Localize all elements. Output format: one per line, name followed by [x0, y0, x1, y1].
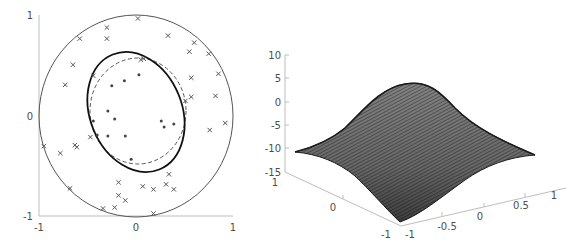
x-marker	[208, 128, 212, 132]
x-marker	[189, 95, 193, 99]
x-marker	[213, 94, 217, 98]
z-tick-label: -5	[271, 120, 281, 131]
y-tick-label: 1	[27, 10, 33, 21]
z-tick-label: 10	[268, 50, 281, 61]
x-marker	[136, 16, 140, 20]
dot-marker	[113, 118, 116, 121]
dot-marker	[130, 158, 133, 161]
x-marker	[105, 25, 109, 29]
x-marker	[172, 187, 176, 191]
x-marker	[189, 76, 193, 80]
z-tick-label: 0	[275, 97, 281, 108]
x-marker	[88, 135, 92, 139]
dot-marker	[92, 120, 95, 123]
x-marker	[116, 180, 120, 184]
x-tick-label: 0.5	[513, 200, 529, 211]
x-marker	[187, 49, 191, 53]
x-marker	[151, 187, 155, 191]
x-marker	[105, 36, 109, 40]
surface-plot: 10 5 0 -5 -10 -15 1 0 -1 -1 -0.5 0 0.5 1	[265, 50, 566, 240]
x-marker	[78, 36, 82, 40]
x-marker	[223, 121, 227, 125]
x-tick-label: 0	[133, 222, 139, 233]
x-marker	[101, 206, 105, 210]
x-tick-label: 1	[551, 190, 557, 201]
y-tick-label: 0	[330, 202, 336, 213]
dot-marker	[124, 135, 127, 138]
dot-marker	[137, 73, 140, 76]
dot-marker	[123, 79, 126, 82]
x-marker	[166, 33, 170, 37]
x-tick-label: 1	[230, 222, 236, 233]
y-tick-label: -1	[381, 229, 391, 240]
x-marker	[167, 172, 171, 176]
scatter-plot: 1 0 -1 -1 0 1	[23, 10, 236, 233]
dot-marker	[106, 109, 109, 112]
dot-marker	[96, 134, 99, 137]
x-marker	[71, 63, 75, 67]
x-marker	[63, 83, 67, 87]
z-ticks	[285, 55, 289, 148]
x-marker	[112, 205, 116, 209]
dot-marker	[110, 84, 113, 87]
x-tick-label: -1	[405, 229, 415, 240]
outer-samples	[42, 16, 228, 215]
y-tick-label: 0	[27, 111, 33, 122]
x-marker	[141, 184, 145, 188]
x-tick-label: -1	[34, 222, 44, 233]
x-marker	[58, 151, 62, 155]
dot-marker	[172, 123, 175, 126]
y-tick-label: 1	[272, 177, 278, 188]
x-marker	[216, 72, 220, 76]
dot-marker	[163, 126, 166, 129]
x-marker	[164, 182, 168, 186]
figure: 1 0 -1 -1 0 1 10 5 0 -5 -10 -15	[0, 0, 579, 250]
z-tick-label: 5	[275, 73, 281, 84]
y-tick-label: -1	[23, 211, 33, 222]
x-marker	[123, 198, 127, 202]
x-marker	[207, 51, 211, 55]
x-marker	[75, 145, 79, 149]
x-tick-label: 0	[477, 211, 483, 222]
x-marker	[116, 193, 120, 197]
dot-marker	[106, 135, 109, 138]
x-marker	[192, 40, 196, 44]
x-tick-label: -0.5	[437, 221, 457, 232]
z-tick-label: -10	[265, 143, 281, 154]
dot-marker	[160, 120, 163, 123]
